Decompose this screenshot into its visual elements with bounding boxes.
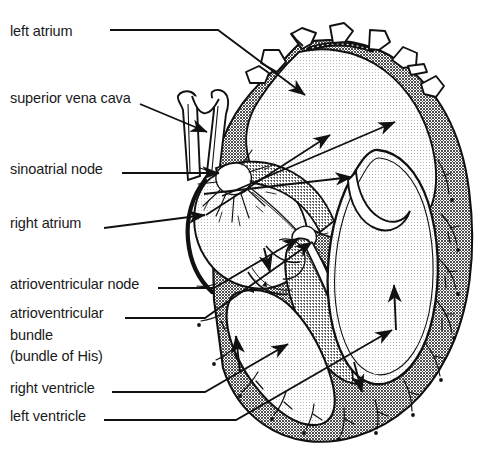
label-right-atrium: right atrium: [10, 213, 81, 235]
heart-outline: [178, 23, 472, 442]
label-sinoatrial-node: sinoatrial node: [10, 159, 103, 181]
label-left-ventricle: left ventricle: [10, 406, 86, 428]
label-left-atrium: left atrium: [10, 21, 73, 43]
label-atrioventricular-node: atrioventricular node: [10, 274, 139, 296]
label-atrioventricular-bundle: atrioventricular bundle (bundle of His): [10, 303, 104, 368]
label-superior-vena-cava: superior vena cava: [10, 88, 131, 110]
label-right-ventricle: right ventricle: [10, 378, 95, 400]
